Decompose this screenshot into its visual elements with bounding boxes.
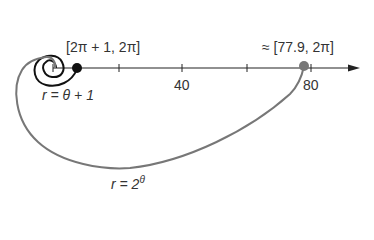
point-theta-plus-one: [72, 63, 82, 73]
point-two-power-theta: [299, 61, 309, 71]
curve-label-two-power-theta: r = 2θ: [111, 175, 145, 191]
curve-label-base: r = 2: [111, 176, 139, 192]
curve-label-exponent: θ: [139, 174, 144, 185]
curve-theta-plus-one: [35, 56, 77, 86]
curve-label-theta-plus-one: r = θ + 1: [42, 88, 94, 102]
tick-label-80: 80: [303, 78, 319, 92]
curve-two-power-theta: [16, 57, 304, 168]
tick-label-40: 40: [174, 78, 190, 92]
axis-arrow-icon: [348, 65, 360, 72]
point-label-gray: ≈ [77.9, 2π]: [262, 40, 334, 54]
point-label-black: [2π + 1, 2π]: [66, 40, 140, 54]
